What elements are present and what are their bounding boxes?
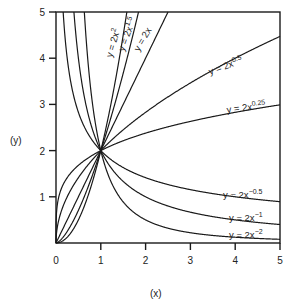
curve-label: y = 2x−0.5 (223, 188, 263, 200)
x-tick-label: 5 (277, 255, 283, 266)
y-axis-label: (y) (10, 135, 22, 146)
x-axis-label: (x) (150, 288, 162, 299)
x-tick-label: 3 (188, 255, 194, 266)
x-axis-ticks: 012345 (53, 243, 283, 266)
y-axis-ticks: 12345 (39, 7, 56, 203)
plot-frame (56, 12, 280, 243)
x-tick-label: 4 (232, 255, 238, 266)
x-tick-label: 1 (98, 255, 104, 266)
y-tick-label: 1 (39, 192, 45, 203)
power-function-chart: 012345 12345 (y) (x) y = 2x2y = 2x1.5y =… (0, 0, 292, 307)
curve-label: y = 2x0.25 (226, 98, 267, 115)
y-tick-label: 2 (39, 146, 45, 157)
curves-group (56, 12, 280, 243)
x-tick-label: 0 (53, 255, 59, 266)
curve-label: y = 2x−1 (229, 211, 263, 223)
y-tick-label: 5 (39, 7, 45, 18)
y-tick-label: 3 (39, 99, 45, 110)
y-tick-label: 4 (39, 53, 45, 64)
x-tick-label: 2 (143, 255, 149, 266)
curve-label: y = 2x0.5 (207, 53, 244, 76)
